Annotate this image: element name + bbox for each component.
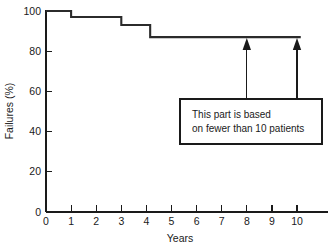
x-tick-label-2: 2 (93, 215, 99, 227)
y-tick-label-100: 100 (23, 5, 41, 17)
y-tick-label-60: 60 (29, 85, 41, 97)
x-tick-label-7: 7 (219, 215, 225, 227)
y-tick-label-20: 20 (29, 165, 41, 177)
x-tick-label-5: 5 (169, 215, 175, 227)
x-tick-label-3: 3 (118, 215, 124, 227)
x-tick-label-4: 4 (143, 215, 149, 227)
x-tick-label-6: 6 (194, 215, 200, 227)
x-tick-label-10: 10 (291, 215, 303, 227)
callout-line-1: This part is based (192, 109, 271, 120)
x-tick-label-0: 0 (43, 215, 49, 227)
callout-arrows (243, 38, 302, 99)
y-tick-label-0: 0 (35, 206, 41, 218)
x-tick-label-9: 9 (269, 215, 275, 227)
y-axis: 0 20 40 60 80 100 Failures (%) (3, 5, 52, 218)
x-tick-label-1: 1 (68, 215, 74, 227)
x-axis-title: Years (167, 232, 193, 244)
callout-box (180, 99, 322, 144)
x-tick-label-8: 8 (244, 215, 250, 227)
x-axis: 0 1 2 3 4 5 6 7 8 9 10 Years (43, 205, 328, 244)
y-tick-label-80: 80 (29, 45, 41, 57)
callout-line-2: on fewer than 10 patients (192, 123, 304, 134)
survival-curve-chart: 0 20 40 60 80 100 Failures (%) (0, 0, 331, 248)
callout-arrow-head-year8 (243, 38, 251, 50)
x-axis-tick-labels: 0 1 2 3 4 5 6 7 8 9 10 (43, 215, 303, 227)
y-tick-label-40: 40 (29, 125, 41, 137)
callout-arrow-head-year10 (293, 38, 301, 50)
y-axis-title: Failures (%) (3, 83, 15, 140)
callout-annotation: This part is based on fewer than 10 pati… (180, 99, 322, 144)
failures-step-curve (46, 11, 301, 37)
y-axis-ticks (46, 11, 52, 212)
x-axis-ticks (46, 205, 297, 212)
chart-canvas: 0 20 40 60 80 100 Failures (%) (0, 0, 331, 248)
y-axis-tick-labels: 0 20 40 60 80 100 (23, 5, 41, 218)
